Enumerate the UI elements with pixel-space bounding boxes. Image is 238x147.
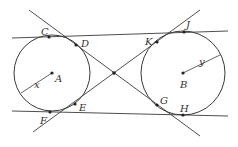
label-g: G [160,95,168,106]
label-d: D [80,38,89,49]
label-e: E [78,102,87,113]
point-a [50,71,53,74]
point-j [182,30,185,33]
label-h: H [179,103,189,114]
label-k: K [144,36,153,47]
point-b [181,71,184,74]
label-b: B [179,79,187,90]
two-circles-tangent-diagram: C D A x E F K J B y G H [0,0,238,147]
point-g [155,103,158,106]
point-d [74,43,77,46]
label-c: C [41,26,49,37]
point-k [155,40,158,43]
diagram-canvas: C D A x E F K J B y G H [0,0,238,147]
label-y: y [198,56,205,67]
label-a: A [54,73,62,84]
point-f [48,110,51,113]
label-j: J [184,19,191,30]
label-x: x [34,79,40,90]
point-intersection [112,71,116,75]
label-f: F [39,115,48,126]
point-e [73,102,76,105]
